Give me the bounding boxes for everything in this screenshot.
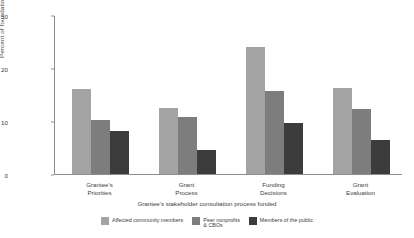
x-category-label: GrantProcess <box>142 181 232 196</box>
bar-group <box>246 16 303 174</box>
bar <box>265 91 284 174</box>
y-axis-title: Percent of foundations <box>0 0 5 58</box>
legend-item[interactable]: Affected community members <box>101 217 183 225</box>
legend-label: Affected community members <box>112 217 183 223</box>
x-category-label-line: Process <box>142 189 232 197</box>
bars-container <box>55 16 402 174</box>
bar-group <box>159 16 216 174</box>
plot-area <box>54 16 402 175</box>
bar-chart: Percent of foundations 0102030 Grantee's… <box>0 0 414 238</box>
bar <box>246 47 265 174</box>
x-category-label-line: Grant <box>142 181 232 189</box>
bar <box>284 123 303 174</box>
x-category-label-line: Evaluation <box>316 189 406 197</box>
x-axis-title: Grantee's stakeholder consultation proce… <box>0 200 414 207</box>
bar <box>197 150 216 174</box>
x-category-label-line: Funding <box>229 181 319 189</box>
x-category-label-line: Grant <box>316 181 406 189</box>
bar <box>91 120 110 174</box>
legend-label: Peer nonprofits & CBOs <box>203 217 240 229</box>
legend-swatch <box>249 217 257 225</box>
legend-item[interactable]: Peer nonprofits & CBOs <box>192 217 240 229</box>
bar-group <box>72 16 129 174</box>
legend-item[interactable]: Members of the public <box>249 217 313 225</box>
y-tick-label: 30 <box>0 13 8 20</box>
x-category-label: GrantEvaluation <box>316 181 406 196</box>
legend-swatch <box>101 217 109 225</box>
bar <box>110 131 129 174</box>
bar <box>333 88 352 174</box>
x-category-label: FundingDecisions <box>229 181 319 196</box>
bar <box>72 89 91 174</box>
y-tick-label: 10 <box>0 119 8 126</box>
bar <box>352 109 371 174</box>
x-category-label-line: Decisions <box>229 189 319 197</box>
bar <box>371 140 390 174</box>
legend: Affected community membersPeer nonprofit… <box>0 217 414 229</box>
x-category-label-line: Grantee's <box>55 181 145 189</box>
bar <box>178 117 197 174</box>
x-category-label-line: Priorities <box>55 189 145 197</box>
y-tick-label: 20 <box>0 66 8 73</box>
y-tick-label: 0 <box>0 172 8 179</box>
x-category-label: Grantee'sPriorities <box>55 181 145 196</box>
bar-group <box>333 16 390 174</box>
bar <box>159 108 178 174</box>
legend-swatch <box>192 217 200 225</box>
legend-label: Members of the public <box>260 217 313 223</box>
